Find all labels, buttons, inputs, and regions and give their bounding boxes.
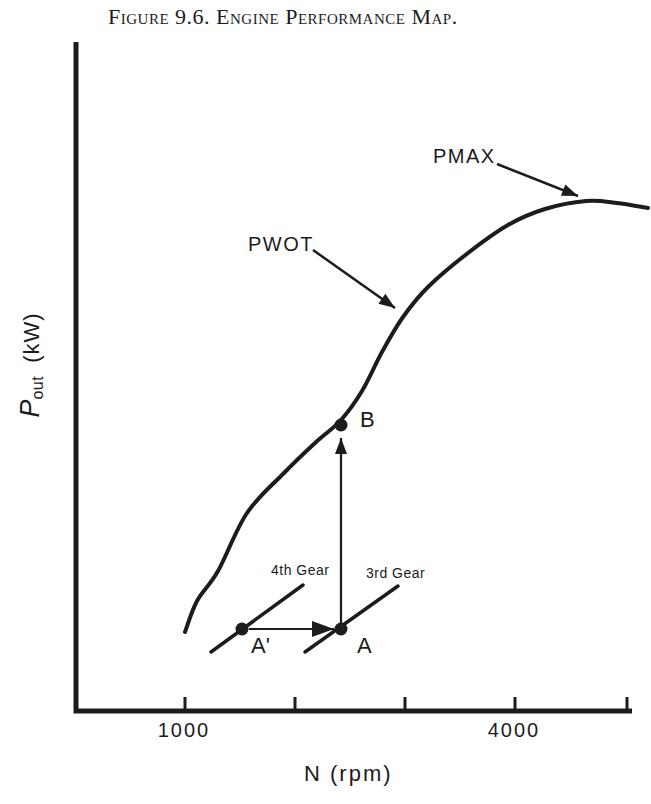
y-axis-subscript: out xyxy=(29,376,46,400)
x-tick-label-1000: 1000 xyxy=(152,719,216,742)
point-a-prime-dot xyxy=(236,623,249,636)
pwot-label: PWOT xyxy=(248,233,314,256)
gear3-label: 3rd Gear xyxy=(366,565,425,581)
chart-canvas xyxy=(0,0,651,804)
point-a-dot xyxy=(335,623,348,636)
axes xyxy=(76,42,632,711)
pmax-arrow xyxy=(497,164,578,196)
y-axis-label: Pout(kW) xyxy=(8,280,52,450)
pwot-arrow xyxy=(313,250,395,308)
y-axis-unit: (kW) xyxy=(19,312,44,362)
point-b-dot xyxy=(335,419,348,432)
point-b-label: B xyxy=(360,407,375,432)
figure-9-6-engine-performance-map: Figure 9.6. Engine Performance Map. PMAX… xyxy=(0,0,651,804)
y-axis-symbol: P xyxy=(15,400,45,418)
x-tick-label-4000: 4000 xyxy=(482,719,546,742)
point-a-prime-label: A' xyxy=(251,633,270,658)
gear4-label: 4th Gear xyxy=(271,562,329,578)
figure-title: Figure 9.6. Engine Performance Map. xyxy=(108,4,458,29)
gear3-line xyxy=(305,586,398,652)
pmax-label: PMAX xyxy=(433,145,496,168)
x-axis-label: N (rpm) xyxy=(304,761,393,786)
point-a-label: A xyxy=(357,633,372,658)
